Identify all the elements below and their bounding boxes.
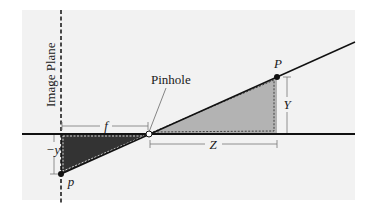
pinhole-label: Pinhole (151, 72, 191, 87)
image-height-label: −y (46, 142, 61, 157)
diagram-panel (22, 10, 355, 200)
image-point-label: p (67, 174, 75, 189)
object-point-marker (274, 74, 280, 80)
image-point-marker (58, 171, 64, 177)
pinhole-camera-diagram: f Z Y −y Pinhole P p Image Plane (0, 0, 375, 211)
image-plane-label: Image Plane (43, 42, 58, 107)
depth-label: Z (209, 137, 217, 152)
object-point-label: P (273, 56, 282, 71)
pinhole-point (146, 131, 152, 137)
